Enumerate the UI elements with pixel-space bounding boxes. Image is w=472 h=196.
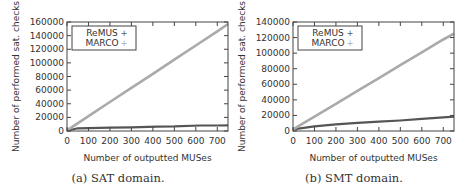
legend-marker-icon: + (121, 39, 128, 48)
y-tick-label: 120000 (256, 33, 291, 43)
legend-marker-icon: + (121, 29, 128, 38)
x-axis-title: Number of outputted MUSes (83, 153, 211, 163)
y-tick-label: 80000 (261, 64, 290, 74)
y-tick-label: 100000 (30, 58, 65, 68)
sat-chart: 0200004000060000800001000001200001400001… (0, 0, 236, 170)
y-tick-label: 0 (58, 126, 64, 136)
y-axis-title: Number of performed sat. checks (11, 1, 21, 152)
y-axis-title: Number of performed sat. checks (237, 1, 247, 152)
x-tick-label: 200 (327, 136, 344, 146)
y-tick-label: 140000 (30, 31, 65, 41)
chart-panel-sat: 0200004000060000800001000001200001400001… (0, 0, 236, 196)
x-tick-label: 500 (166, 136, 183, 146)
x-tick-label: 0 (64, 136, 70, 146)
y-tick-label: 100000 (256, 48, 291, 58)
legend: ReMUS+MARCO+ (72, 26, 136, 50)
legend-label-remus: ReMUS (312, 28, 344, 38)
y-tick-label: 60000 (35, 85, 64, 95)
x-axis-title: Number of outputted MUSes (309, 153, 437, 163)
x-tick-label: 300 (123, 136, 140, 146)
y-tick-label: 20000 (261, 110, 290, 120)
legend-marker-icon: + (347, 39, 354, 48)
y-tick-label: 40000 (261, 95, 290, 105)
legend-label-remus: ReMUS (86, 28, 118, 38)
y-tick-label: 160000 (30, 17, 65, 27)
x-tick-label: 400 (144, 136, 161, 146)
sat-caption: (a) SAT domain. (0, 171, 236, 185)
x-tick-label: 0 (290, 136, 296, 146)
legend: ReMUS+MARCO+ (298, 26, 362, 50)
y-tick-label: 40000 (35, 99, 64, 109)
series-line-remus (67, 125, 228, 130)
y-tick-label: 0 (284, 126, 290, 136)
x-tick-label: 100 (306, 136, 323, 146)
legend-label-marco: MARCO (311, 38, 344, 48)
x-tick-label: 500 (392, 136, 409, 146)
x-tick-label: 700 (209, 136, 226, 146)
y-tick-label: 60000 (261, 79, 290, 89)
legend-marker-icon: + (347, 29, 354, 38)
x-tick-label: 200 (101, 136, 118, 146)
x-tick-label: 100 (80, 136, 97, 146)
y-tick-label: 80000 (35, 72, 64, 82)
x-tick-label: 400 (370, 136, 387, 146)
y-tick-label: 140000 (256, 17, 291, 27)
y-tick-label: 20000 (35, 112, 64, 122)
legend-label-marco: MARCO (85, 38, 118, 48)
x-tick-label: 300 (349, 136, 366, 146)
x-tick-label: 600 (413, 136, 430, 146)
y-tick-label: 120000 (30, 44, 65, 54)
x-tick-label: 600 (187, 136, 204, 146)
series-line-remus (293, 117, 454, 130)
chart-panel-smt: 0200004000060000800001000001200001400000… (236, 0, 472, 196)
smt-chart: 0200004000060000800001000001200001400000… (236, 0, 472, 170)
x-tick-label: 700 (435, 136, 452, 146)
smt-caption: (b) SMT domain. (236, 171, 472, 185)
